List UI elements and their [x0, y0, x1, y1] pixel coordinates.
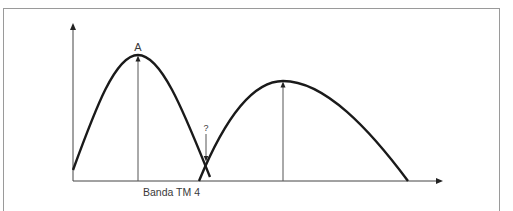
- peak-a-label: A: [134, 41, 142, 53]
- curve-1: [73, 55, 210, 177]
- curve-2: [199, 81, 408, 181]
- spectral-diagram: A ? Banda TM 4: [0, 0, 513, 211]
- x-axis-label: Banda TM 4: [143, 186, 200, 198]
- question-label: ?: [203, 123, 208, 133]
